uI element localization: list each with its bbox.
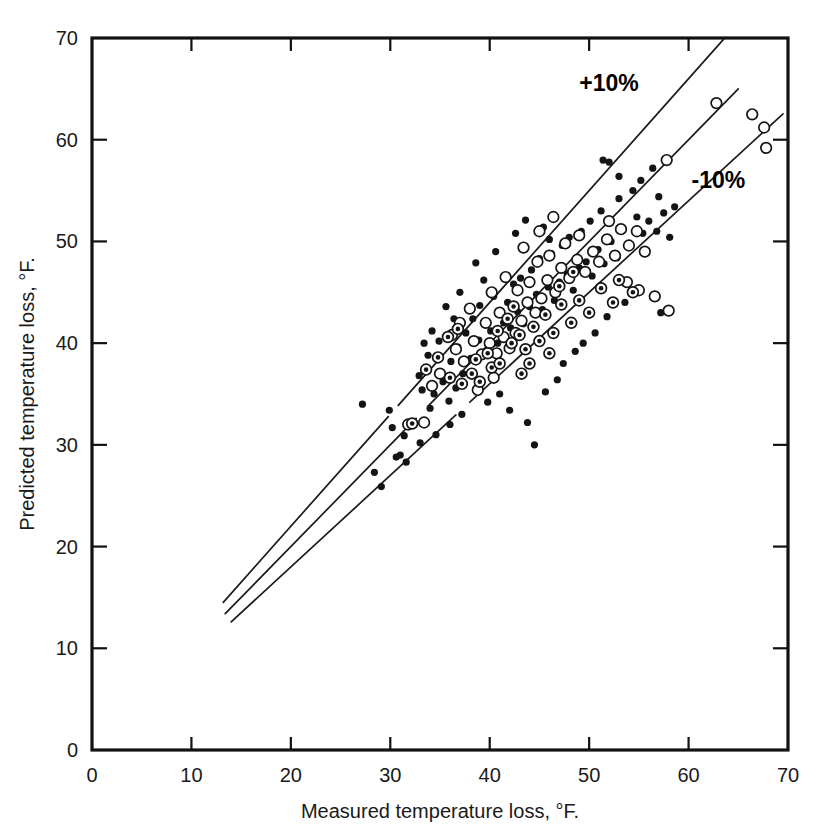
scatter-chart-figure: 010203040506070 010203040506070 +10%-10%… <box>0 0 816 835</box>
data-point <box>588 246 599 257</box>
data-point <box>522 216 529 223</box>
data-point <box>603 313 610 320</box>
data-point <box>640 246 651 257</box>
data-point-core <box>611 300 616 305</box>
data-point <box>548 212 559 223</box>
data-point <box>624 240 635 251</box>
data-point <box>542 275 553 286</box>
data-point <box>560 360 567 367</box>
data-point <box>492 248 499 255</box>
data-point <box>649 291 660 302</box>
data-point-core <box>485 351 490 356</box>
data-point-core <box>477 379 482 384</box>
data-point <box>446 421 453 428</box>
data-point <box>389 424 396 431</box>
data-point <box>451 344 462 355</box>
x-axis-title: Measured temperature loss, °F. <box>301 800 579 822</box>
data-point <box>633 213 640 220</box>
data-point <box>359 401 366 408</box>
annotation-10-label: +10% <box>579 70 638 96</box>
data-point-core <box>577 298 582 303</box>
data-point <box>432 431 439 438</box>
data-point <box>445 398 452 405</box>
data-point <box>711 98 722 109</box>
data-point <box>615 173 622 180</box>
y-axis-title: Predicted temperature loss, °F. <box>16 257 38 531</box>
data-point <box>536 293 547 304</box>
data-point-core <box>523 347 528 352</box>
x-tick-label-70: 70 <box>777 764 799 786</box>
data-point <box>655 193 662 200</box>
data-point <box>542 388 549 395</box>
data-point <box>484 338 495 349</box>
data-point <box>532 256 543 267</box>
data-point <box>602 234 613 245</box>
data-point <box>459 370 466 377</box>
data-point <box>597 207 604 214</box>
data-point <box>456 289 463 296</box>
data-point <box>570 287 577 294</box>
data-point <box>671 203 678 210</box>
data-point <box>660 209 667 216</box>
data-point <box>759 122 770 133</box>
x-tick-label-0: 0 <box>86 764 97 786</box>
data-point <box>747 109 758 120</box>
chart-background <box>0 0 816 835</box>
data-point-core <box>446 335 451 340</box>
data-point <box>556 263 567 274</box>
data-point <box>587 217 594 224</box>
data-point-core <box>569 321 574 326</box>
data-point <box>427 381 438 392</box>
data-point <box>469 336 480 347</box>
data-point <box>506 407 513 414</box>
data-point <box>512 285 523 296</box>
data-point-core <box>470 371 475 376</box>
data-point <box>472 259 479 266</box>
data-point <box>426 405 433 412</box>
data-point-core <box>509 341 514 346</box>
data-point <box>424 352 431 359</box>
data-point <box>500 272 511 283</box>
data-point <box>469 315 476 322</box>
data-point <box>645 217 652 224</box>
data-point <box>666 234 673 241</box>
data-point-core <box>617 278 622 283</box>
data-point <box>447 358 454 365</box>
data-point <box>637 177 644 184</box>
data-point <box>528 266 535 273</box>
data-point-core <box>519 371 524 376</box>
data-point <box>378 483 385 490</box>
data-point-core <box>537 339 542 344</box>
data-point-core <box>551 331 556 336</box>
data-point <box>484 399 491 406</box>
data-point-core <box>473 357 478 362</box>
data-point <box>530 307 541 318</box>
data-point <box>419 386 426 393</box>
data-point-core <box>436 355 441 360</box>
data-point <box>663 305 674 316</box>
data-point <box>417 439 424 446</box>
data-point <box>560 238 571 249</box>
data-point <box>419 417 430 428</box>
data-point <box>531 441 538 448</box>
data-point-core <box>557 284 562 289</box>
data-point <box>522 297 533 308</box>
data-point <box>572 254 583 265</box>
x-tick-label-30: 30 <box>379 764 401 786</box>
data-point <box>592 329 599 336</box>
data-point <box>546 236 553 243</box>
data-point-core <box>631 290 636 295</box>
data-point <box>496 390 503 397</box>
data-point-core <box>571 270 576 275</box>
data-point <box>486 287 497 298</box>
y-tick-label-0: 0 <box>67 739 78 761</box>
data-point <box>524 419 531 426</box>
data-point-core <box>559 302 564 307</box>
data-point <box>459 356 470 367</box>
y-tick-label-10: 10 <box>56 637 78 659</box>
x-tick-label-40: 40 <box>479 764 501 786</box>
data-point <box>615 195 622 202</box>
data-point <box>401 432 408 439</box>
data-point <box>476 302 483 309</box>
data-point-core <box>587 310 592 315</box>
